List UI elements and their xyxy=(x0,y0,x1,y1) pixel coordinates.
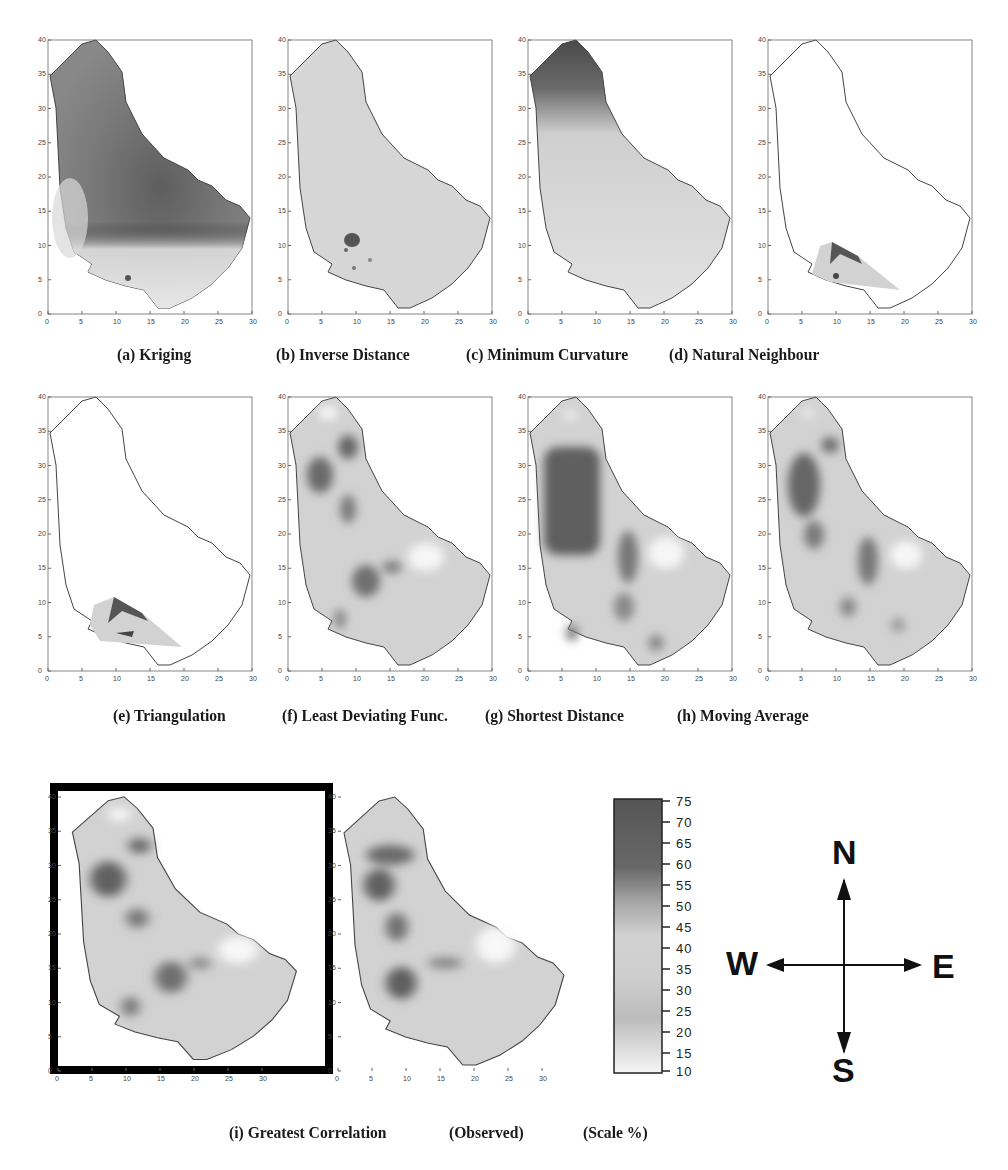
svg-text:10: 10 xyxy=(123,1075,131,1082)
svg-text:5: 5 xyxy=(79,675,83,682)
inverse-distance-map: 0510152025300510152025303540 xyxy=(270,28,510,328)
svg-text:20: 20 xyxy=(471,1075,479,1082)
svg-text:25: 25 xyxy=(695,318,703,325)
svg-text:20: 20 xyxy=(181,318,189,325)
caption-triangulation: (e) Triangulation xyxy=(113,706,226,726)
scale-label: 25 xyxy=(676,1004,692,1019)
svg-text:5: 5 xyxy=(89,1075,93,1082)
scale-label: 35 xyxy=(676,962,692,977)
svg-text:25: 25 xyxy=(215,318,223,325)
scale-label: 55 xyxy=(676,878,692,893)
scale-gradient xyxy=(614,799,662,1073)
scale-label: 45 xyxy=(676,920,692,935)
svg-text:20: 20 xyxy=(38,530,46,537)
svg-text:35: 35 xyxy=(38,70,46,77)
svg-text:10: 10 xyxy=(833,318,841,325)
svg-text:10: 10 xyxy=(38,599,46,606)
scale-label: 50 xyxy=(676,899,692,914)
svg-text:10: 10 xyxy=(113,675,121,682)
caption-least-deviating: (f) Least Deviating Func. xyxy=(282,706,448,726)
svg-text:15: 15 xyxy=(867,675,875,682)
svg-text:15: 15 xyxy=(387,318,395,325)
svg-text:5: 5 xyxy=(799,675,803,682)
caption-minimum-curvature: (c) Minimum Curvature xyxy=(466,345,628,365)
svg-text:10: 10 xyxy=(38,242,46,249)
svg-text:0: 0 xyxy=(525,318,529,325)
svg-text:40: 40 xyxy=(48,793,56,800)
svg-text:20: 20 xyxy=(901,675,909,682)
map-panel-observed: 0510152025300510152025303540 xyxy=(320,785,590,1085)
svg-text:20: 20 xyxy=(661,318,669,325)
svg-text:10: 10 xyxy=(278,242,286,249)
scale-ticks xyxy=(662,801,670,1071)
caption-inverse-distance: (b) Inverse Distance xyxy=(276,345,410,365)
svg-text:15: 15 xyxy=(38,207,46,214)
svg-text:10: 10 xyxy=(593,675,601,682)
svg-text:25: 25 xyxy=(278,139,286,146)
svg-text:10: 10 xyxy=(593,318,601,325)
svg-text:15: 15 xyxy=(147,675,155,682)
svg-text:35: 35 xyxy=(328,827,336,834)
scale-label: 70 xyxy=(676,815,692,830)
svg-text:15: 15 xyxy=(387,675,395,682)
svg-text:5: 5 xyxy=(369,1075,373,1082)
svg-text:40: 40 xyxy=(278,36,286,43)
svg-text:20: 20 xyxy=(278,173,286,180)
svg-text:10: 10 xyxy=(518,599,526,606)
caption-greatest-correlation: (i) Greatest Correlation xyxy=(229,1123,387,1143)
svg-text:15: 15 xyxy=(38,564,46,571)
svg-text:0: 0 xyxy=(278,667,282,674)
map-panel-minimum-curvature: 0510152025300510152025303540 xyxy=(510,28,750,328)
svg-text:15: 15 xyxy=(328,964,336,971)
svg-text:10: 10 xyxy=(518,242,526,249)
svg-text:0: 0 xyxy=(335,1075,339,1082)
scale-label: 15 xyxy=(676,1046,692,1061)
svg-text:5: 5 xyxy=(38,276,42,283)
svg-text:10: 10 xyxy=(328,999,336,1006)
svg-text:25: 25 xyxy=(48,896,56,903)
svg-text:20: 20 xyxy=(278,530,286,537)
svg-text:20: 20 xyxy=(518,173,526,180)
svg-text:40: 40 xyxy=(518,36,526,43)
caption-scale: (Scale %) xyxy=(583,1123,648,1143)
svg-text:10: 10 xyxy=(113,318,121,325)
svg-text:0: 0 xyxy=(278,310,282,317)
svg-text:30: 30 xyxy=(278,462,286,469)
svg-text:5: 5 xyxy=(48,1033,52,1040)
scale-label: 30 xyxy=(676,983,692,998)
svg-text:0: 0 xyxy=(45,318,49,325)
svg-text:0: 0 xyxy=(285,675,289,682)
svg-text:20: 20 xyxy=(661,675,669,682)
svg-text:5: 5 xyxy=(79,318,83,325)
svg-text:30: 30 xyxy=(38,105,46,112)
svg-text:0: 0 xyxy=(765,318,769,325)
svg-text:35: 35 xyxy=(518,70,526,77)
svg-text:15: 15 xyxy=(867,318,875,325)
svg-text:30: 30 xyxy=(758,462,766,469)
scale-label: 40 xyxy=(676,941,692,956)
svg-text:20: 20 xyxy=(328,930,336,937)
svg-text:15: 15 xyxy=(758,564,766,571)
svg-text:25: 25 xyxy=(935,318,943,325)
natural-neighbour-map: 0510152025300510152025303540 xyxy=(750,28,990,328)
svg-text:40: 40 xyxy=(38,36,46,43)
svg-text:25: 25 xyxy=(455,318,463,325)
svg-text:20: 20 xyxy=(38,173,46,180)
svg-text:10: 10 xyxy=(353,318,361,325)
svg-text:10: 10 xyxy=(278,599,286,606)
svg-text:20: 20 xyxy=(421,318,429,325)
svg-text:0: 0 xyxy=(765,675,769,682)
svg-text:35: 35 xyxy=(278,427,286,434)
svg-text:0: 0 xyxy=(55,1075,59,1082)
svg-text:15: 15 xyxy=(278,207,286,214)
map-panel-triangulation: 0510152025300510152025303540 xyxy=(30,385,270,685)
island-shape xyxy=(530,40,730,308)
svg-text:20: 20 xyxy=(181,675,189,682)
svg-text:0: 0 xyxy=(38,667,42,674)
color-scale-legend: 75 70 65 60 55 50 45 40 35 30 25 20 15 1… xyxy=(610,795,720,1080)
svg-text:0: 0 xyxy=(38,310,42,317)
svg-text:20: 20 xyxy=(758,530,766,537)
svg-text:15: 15 xyxy=(157,1075,165,1082)
svg-text:20: 20 xyxy=(191,1075,199,1082)
svg-text:5: 5 xyxy=(328,1033,332,1040)
